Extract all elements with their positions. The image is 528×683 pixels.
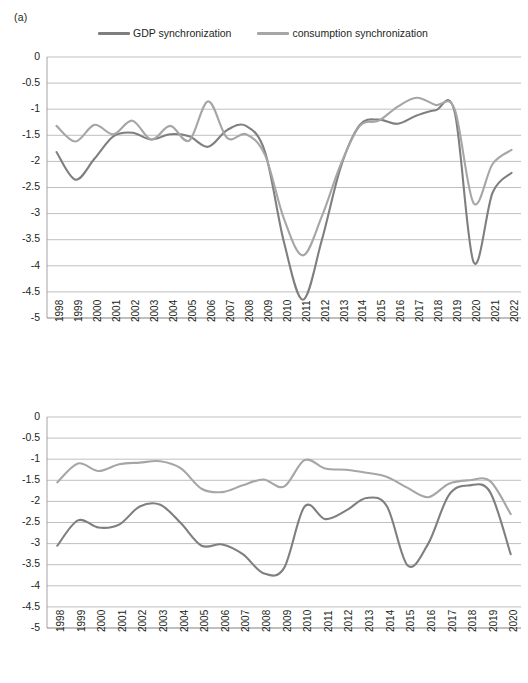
y-axis-tick-label: -3.5 xyxy=(22,232,40,244)
x-axis-tick-label: 2013 xyxy=(364,609,375,632)
x-axis-tick-label: 2000 xyxy=(92,299,103,322)
x-axis-tick-label: 2017 xyxy=(447,609,458,632)
y-axis-tick-label: -4 xyxy=(31,579,40,591)
x-axis-tick-label: 2018 xyxy=(467,609,478,632)
x-axis-tick-label: 2005 xyxy=(187,299,198,322)
x-axis-tick-label: 2011 xyxy=(323,610,334,632)
x-axis-tick-label: 2008 xyxy=(244,299,255,322)
y-axis-tick-label: -5 xyxy=(31,311,40,323)
x-axis-tick-label: 2008 xyxy=(261,609,272,632)
y-axis-tick-label: -1.5 xyxy=(22,128,40,140)
x-axis-tick-label: 1998 xyxy=(55,609,66,632)
x-axis-tick-label: 2020 xyxy=(508,609,519,632)
x-axis-tick-label: 2005 xyxy=(199,609,210,632)
y-axis-tick-label: -1 xyxy=(31,102,40,114)
y-axis-tick-label: -4 xyxy=(31,259,40,271)
y-axis-tick-label: -4.5 xyxy=(22,600,40,612)
y-axis-tick-label: -4.5 xyxy=(22,285,40,297)
x-axis-tick-label: 2009 xyxy=(263,299,274,322)
x-axis-tick-label: 1999 xyxy=(76,609,87,632)
x-axis-tick-label: 2014 xyxy=(357,299,368,322)
x-axis-tick-label: 2002 xyxy=(130,299,141,322)
chart-panel-b: (b) GSP synchronization Consumption sync… xyxy=(0,370,528,683)
x-axis-tick-label: 2001 xyxy=(111,299,122,322)
x-axis-tick-label: 2014 xyxy=(385,609,396,632)
x-axis-tick-label: 2009 xyxy=(282,609,293,632)
series-line-secondary xyxy=(56,98,511,256)
x-axis-tick-label: 2012 xyxy=(320,299,331,322)
y-axis-tick-label: -0.5 xyxy=(22,76,40,88)
y-axis-tick-label: -2 xyxy=(31,494,40,506)
x-axis-tick-label: 2004 xyxy=(168,299,179,322)
series-line-primary xyxy=(56,100,511,300)
y-axis-tick-label: -1.5 xyxy=(22,473,40,485)
x-axis-tick-label: 2010 xyxy=(302,609,313,632)
x-axis-tick-label: 2001 xyxy=(117,609,128,632)
x-axis-tick-label: 2018 xyxy=(433,299,444,322)
x-axis-tick-label: 1999 xyxy=(73,299,84,322)
x-axis-tick-label: 2015 xyxy=(405,609,416,632)
y-axis-tick-label: -2.5 xyxy=(22,515,40,527)
y-axis-tick-label: -2.5 xyxy=(22,180,40,192)
x-axis-tick-label: 2006 xyxy=(220,609,231,632)
x-axis-tick-label: 2016 xyxy=(426,609,437,632)
x-axis-tick-label: 2011 xyxy=(301,300,312,322)
x-axis-tick-label: 2007 xyxy=(240,609,251,632)
x-axis-tick-label: 2002 xyxy=(137,609,148,632)
x-axis-tick-label: 2006 xyxy=(206,299,217,322)
x-axis-tick-label: 1998 xyxy=(54,299,65,322)
x-axis-tick-label: 2019 xyxy=(488,609,499,632)
x-axis-tick-label: 2022 xyxy=(509,299,520,322)
x-axis-tick-label: 2020 xyxy=(471,299,482,322)
y-axis-tick-label: -1 xyxy=(31,452,40,464)
x-axis-tick-label: 2013 xyxy=(339,299,350,322)
series-line-primary xyxy=(57,484,510,575)
x-axis-tick-label: 2019 xyxy=(452,299,463,322)
x-axis-tick-label: 2003 xyxy=(158,609,169,632)
x-axis-tick-label: 2010 xyxy=(282,299,293,322)
x-axis-tick-label: 2003 xyxy=(149,299,160,322)
y-axis-tick-label: -3.5 xyxy=(22,557,40,569)
y-axis-tick-label: -3 xyxy=(31,536,40,548)
y-axis-tick-label: -2 xyxy=(31,154,40,166)
chart-plot-a: 0-0.5-1-1.5-2-2.5-3-3.5-4-4.5-5199819992… xyxy=(0,0,528,370)
x-axis-tick-label: 2012 xyxy=(343,609,354,632)
x-axis-tick-label: 2021 xyxy=(490,299,501,322)
x-axis-tick-label: 2017 xyxy=(414,299,425,322)
x-axis-tick-label: 2015 xyxy=(376,299,387,322)
y-axis-tick-label: -5 xyxy=(31,621,40,633)
x-axis-tick-label: 2007 xyxy=(225,299,236,322)
x-axis-tick-label: 2000 xyxy=(96,609,107,632)
x-axis-tick-label: 2004 xyxy=(179,609,190,632)
chart-plot-b: 0-0.5-1-1.5-2-2.5-3-3.5-4-4.5-5199819992… xyxy=(0,370,528,683)
y-axis-tick-label: 0 xyxy=(34,410,40,422)
y-axis-tick-label: -0.5 xyxy=(22,431,40,443)
y-axis-tick-label: -3 xyxy=(31,206,40,218)
chart-panel-a: (a) GDP synchronization consumption sync… xyxy=(0,0,528,370)
x-axis-tick-label: 2016 xyxy=(395,299,406,322)
y-axis-tick-label: 0 xyxy=(34,50,40,62)
